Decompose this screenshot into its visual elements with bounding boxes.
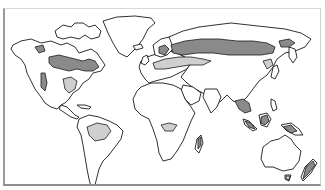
north-america	[11, 39, 105, 109]
region-southeast-asia	[235, 99, 251, 113]
world-map-frame	[3, 8, 321, 186]
australia	[261, 135, 301, 171]
philippines	[271, 99, 277, 111]
india	[203, 89, 221, 113]
central-america	[59, 105, 79, 119]
greenland	[103, 16, 155, 57]
caribbean	[77, 105, 91, 109]
region-tasmania	[286, 176, 290, 180]
arctic-islands	[55, 23, 101, 39]
world-map	[5, 9, 321, 186]
